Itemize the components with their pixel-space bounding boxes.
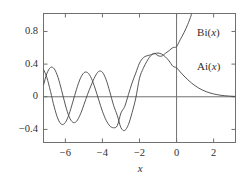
y-tick-label: 0.4 [8, 59, 38, 70]
y-tick-label: −0.4 [8, 124, 38, 135]
y-tick-label: 0 [8, 91, 38, 102]
x-tick-label: −4 [87, 148, 117, 159]
curve-label-bi: Bi(x) [197, 27, 220, 38]
x-axis-title: x [138, 163, 143, 174]
y-tick-label: 0.8 [8, 26, 38, 37]
x-tick-label: −2 [125, 148, 155, 159]
curve-label-ai: Ai(x) [197, 61, 220, 72]
x-tick-label: 0 [162, 148, 192, 159]
x-tick-label: −6 [50, 148, 80, 159]
x-tick-label: 2 [199, 148, 229, 159]
airy-function-plot-figure: −0.4 0 0.4 0.8 −6 −4 −2 0 2 x Bi(x) Ai(x… [0, 0, 249, 178]
